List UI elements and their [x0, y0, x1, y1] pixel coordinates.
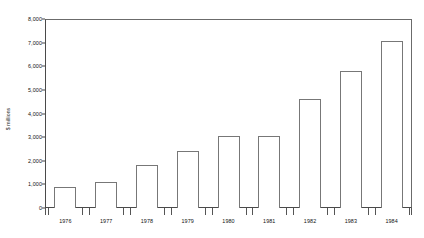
y-axis-tick-mark — [42, 89, 45, 90]
x-axis-tick-mark — [48, 208, 49, 215]
x-axis-tick-mark — [82, 208, 83, 215]
bars-group — [45, 19, 412, 208]
y-axis-tick-mark — [42, 113, 45, 114]
y-axis-tick-mark — [42, 66, 45, 67]
x-axis-tick-mark — [293, 208, 294, 215]
x-axis-tick-mark — [368, 208, 369, 215]
bar — [177, 151, 199, 208]
bar — [258, 136, 280, 208]
y-axis-tick-label: 2,000 — [14, 158, 42, 164]
x-axis-tick-mark — [411, 208, 412, 215]
x-axis-tick-mark — [327, 208, 328, 215]
y-axis-tick-label: 3,000 — [14, 134, 42, 140]
x-axis-tick-label: 1982 — [304, 218, 316, 224]
bar — [136, 165, 158, 208]
x-axis-tick-mark — [334, 208, 335, 215]
x-axis-tick-mark — [164, 208, 165, 215]
y-axis-tick-label: 5,000 — [14, 87, 42, 93]
y-axis-tick-mark — [42, 184, 45, 185]
x-axis-tick-mark — [286, 208, 287, 215]
y-axis-tick-labels: 01,0002,0003,0004,0005,0006,0007,0008,00… — [14, 0, 42, 238]
x-axis-tick-label: 1984 — [385, 218, 397, 224]
x-axis-tick-label: 1983 — [345, 218, 357, 224]
bar — [95, 182, 117, 208]
x-axis-tick-label: 1980 — [222, 218, 234, 224]
bar — [299, 99, 321, 208]
x-axis-tick-mark — [45, 208, 46, 215]
x-axis-tick-mark — [375, 208, 376, 215]
bar — [340, 71, 362, 208]
y-axis-tick-label: 1,000 — [14, 181, 42, 187]
x-axis-tick-mark — [409, 208, 410, 215]
y-axis-tick-mark — [42, 137, 45, 138]
x-axis-tick-mark — [130, 208, 131, 215]
x-axis-tick-mark — [246, 208, 247, 215]
x-axis-tick-mark — [89, 208, 90, 215]
y-axis-tick-label: 8,000 — [14, 16, 42, 22]
x-axis-tick-label: 1978 — [141, 218, 153, 224]
y-axis-tick-label: 6,000 — [14, 63, 42, 69]
bar — [218, 136, 240, 208]
x-axis-tick-mark — [123, 208, 124, 215]
y-axis-tick-label: 0 — [14, 205, 42, 211]
y-axis-tick-mark — [42, 160, 45, 161]
x-axis-tick-labels: 197619771978197919801981198219831984 — [45, 218, 412, 232]
y-axis-tick-label: 4,000 — [14, 111, 42, 117]
x-axis-tick-mark — [205, 208, 206, 215]
x-axis-tick-mark — [212, 208, 213, 215]
x-axis-tick-label: 1976 — [59, 218, 71, 224]
x-axis-tick-marks — [45, 208, 412, 218]
y-axis-tick-mark — [42, 42, 45, 43]
x-axis-tick-mark — [252, 208, 253, 215]
bar-chart: $ millions 01,0002,0003,0004,0005,0006,0… — [0, 0, 424, 238]
x-axis-tick-label: 1979 — [182, 218, 194, 224]
x-axis-tick-mark — [171, 208, 172, 215]
bar — [381, 41, 403, 208]
bar — [54, 187, 76, 208]
y-axis-tick-mark — [42, 19, 45, 20]
y-axis-tick-label: 7,000 — [14, 40, 42, 46]
x-axis-tick-label: 1981 — [263, 218, 275, 224]
x-axis-tick-label: 1977 — [100, 218, 112, 224]
y-axis-tick-mark — [42, 208, 45, 209]
